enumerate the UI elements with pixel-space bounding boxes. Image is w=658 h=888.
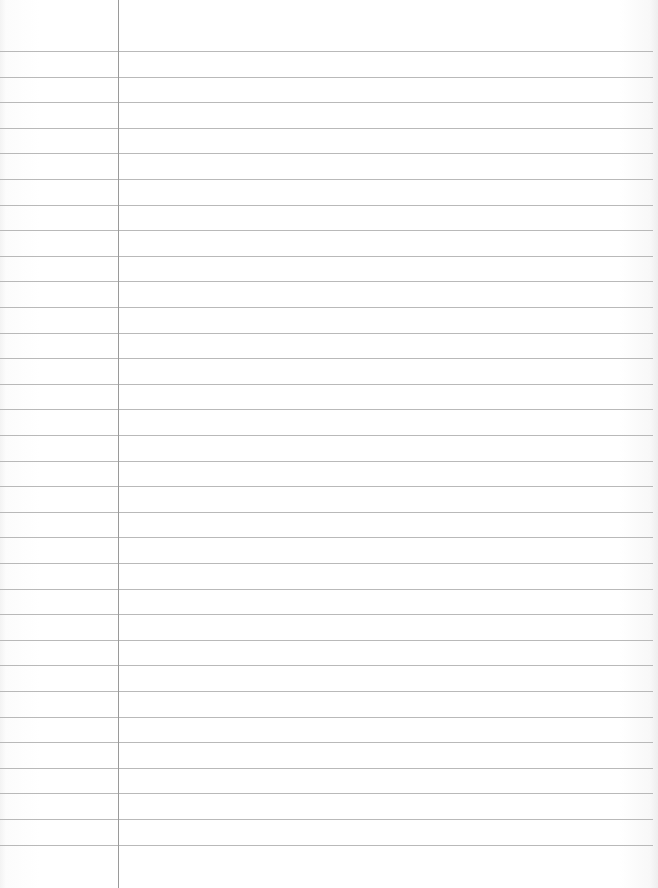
lined-paper-sheet bbox=[0, 0, 658, 888]
ruled-line bbox=[0, 307, 653, 308]
ruled-line bbox=[0, 205, 653, 206]
ruled-line bbox=[0, 77, 653, 78]
ruled-line bbox=[0, 153, 653, 154]
ruled-line bbox=[0, 614, 653, 615]
ruled-line bbox=[0, 819, 653, 820]
ruled-line bbox=[0, 486, 653, 487]
ruled-line bbox=[0, 179, 653, 180]
ruled-line bbox=[0, 256, 653, 257]
ruled-line bbox=[0, 512, 653, 513]
ruled-line bbox=[0, 461, 653, 462]
ruled-line bbox=[0, 563, 653, 564]
ruled-line bbox=[0, 384, 653, 385]
ruled-line bbox=[0, 691, 653, 692]
ruled-line bbox=[0, 793, 653, 794]
ruled-line bbox=[0, 768, 653, 769]
ruled-line bbox=[0, 230, 653, 231]
ruled-line bbox=[0, 128, 653, 129]
ruled-line bbox=[0, 51, 653, 52]
ruled-line bbox=[0, 333, 653, 334]
ruled-line bbox=[0, 358, 653, 359]
ruled-line bbox=[0, 742, 653, 743]
ruled-line bbox=[0, 845, 653, 846]
ruled-line bbox=[0, 281, 653, 282]
ruled-line bbox=[0, 435, 653, 436]
ruled-line bbox=[0, 409, 653, 410]
ruled-line bbox=[0, 717, 653, 718]
ruled-line bbox=[0, 640, 653, 641]
ruled-line bbox=[0, 102, 653, 103]
margin-line bbox=[118, 0, 119, 888]
ruled-line bbox=[0, 665, 653, 666]
ruled-line bbox=[0, 589, 653, 590]
ruled-line bbox=[0, 537, 653, 538]
